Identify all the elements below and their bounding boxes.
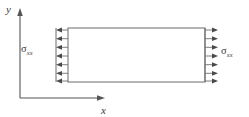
left-arrowhead-1 bbox=[56, 28, 62, 33]
stress-label-left: σxx bbox=[21, 44, 33, 57]
left-traction-group bbox=[56, 28, 68, 84]
left-arrow-1 bbox=[56, 28, 68, 33]
left-arrowhead-5 bbox=[56, 62, 62, 67]
right-arrow-1 bbox=[205, 28, 218, 33]
stress-diagram-figure: y x bbox=[0, 0, 249, 117]
left-arrow-3 bbox=[56, 45, 68, 50]
left-arrowhead-2 bbox=[56, 36, 62, 41]
left-arrow-2 bbox=[56, 36, 68, 41]
y-axis-arrowhead bbox=[17, 8, 23, 16]
right-traction-group bbox=[205, 28, 218, 84]
left-arrow-7 bbox=[56, 79, 68, 84]
right-arrow-5 bbox=[205, 62, 218, 67]
stress-subscript-left: xx bbox=[27, 49, 33, 56]
left-arrowhead-3 bbox=[56, 45, 62, 50]
right-arrowhead-5 bbox=[212, 62, 218, 67]
left-arrow-6 bbox=[56, 71, 68, 76]
right-arrowhead-1 bbox=[212, 28, 218, 33]
body-rectangle bbox=[68, 28, 205, 82]
y-axis-label: y bbox=[5, 3, 11, 15]
right-arrow-7 bbox=[205, 79, 218, 84]
left-arrowhead-7 bbox=[56, 79, 62, 84]
left-arrow-4 bbox=[56, 54, 68, 59]
stress-label-right: σxx bbox=[221, 46, 233, 59]
right-arrowhead-4 bbox=[212, 54, 218, 59]
right-arrowhead-6 bbox=[212, 71, 218, 76]
left-arrow-5 bbox=[56, 62, 68, 67]
right-arrowhead-7 bbox=[212, 79, 218, 84]
left-arrowhead-4 bbox=[56, 54, 62, 59]
right-arrow-3 bbox=[205, 45, 218, 50]
x-axis-label: x bbox=[100, 104, 106, 116]
body-group bbox=[68, 28, 205, 82]
right-arrow-2 bbox=[205, 36, 218, 41]
right-arrow-4 bbox=[205, 54, 218, 59]
right-arrowhead-3 bbox=[212, 45, 218, 50]
diagram-canvas: y x bbox=[0, 0, 249, 117]
left-arrowhead-6 bbox=[56, 71, 62, 76]
x-axis-arrowhead bbox=[97, 95, 105, 100]
stress-subscript-right: xx bbox=[227, 51, 233, 58]
right-arrow-6 bbox=[205, 71, 218, 76]
right-arrowhead-2 bbox=[212, 36, 218, 41]
